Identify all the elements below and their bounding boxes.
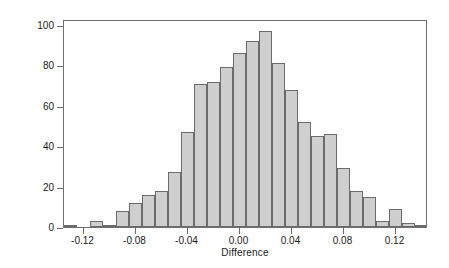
x-axis-tick-label: 0.08	[313, 235, 373, 246]
histogram-bar	[337, 168, 350, 227]
histogram-bar	[181, 132, 194, 227]
histogram-bar	[168, 172, 181, 227]
y-axis-tick	[57, 26, 63, 27]
x-axis-tick	[187, 228, 188, 234]
histogram-bar	[389, 209, 402, 227]
histogram-bar	[129, 203, 142, 227]
x-axis-tick-label: -0.08	[105, 235, 165, 246]
x-axis-tick	[395, 228, 396, 234]
histogram-bar	[103, 225, 116, 227]
histogram-bar	[220, 67, 233, 227]
x-axis-tick	[291, 228, 292, 234]
histogram-bar	[298, 122, 311, 227]
y-axis-tick-label: 100	[14, 21, 54, 31]
plot-frame	[63, 20, 427, 228]
histogram-bar	[311, 136, 324, 227]
x-axis-tick	[239, 228, 240, 234]
histogram-bar	[194, 84, 207, 227]
y-axis-tick-label: 60	[14, 102, 54, 112]
x-axis-tick-label: 0.00	[209, 235, 269, 246]
histogram-bar	[233, 53, 246, 227]
x-axis-tick	[343, 228, 344, 234]
x-axis-tick-label: -0.04	[157, 235, 217, 246]
y-axis-tick	[57, 66, 63, 67]
plot-area	[64, 21, 426, 227]
x-axis-tick	[135, 228, 136, 234]
x-axis-title: Difference	[63, 247, 427, 258]
y-axis-tick	[57, 147, 63, 148]
x-axis-tick	[83, 228, 84, 234]
y-axis-tick-label: 20	[14, 183, 54, 193]
histogram-bar	[116, 211, 129, 227]
y-axis-tick-label: 40	[14, 142, 54, 152]
histogram-bar	[90, 221, 103, 227]
histogram-figure: Frequency Difference 020406080100-0.12-0…	[0, 0, 449, 268]
x-axis-tick-label: 0.04	[261, 235, 321, 246]
histogram-bar	[246, 41, 259, 227]
histogram-bar	[324, 134, 337, 227]
y-axis-tick	[57, 188, 63, 189]
histogram-bar	[207, 82, 220, 227]
y-axis-tick	[57, 228, 63, 229]
histogram-bar	[272, 63, 285, 227]
histogram-bar	[285, 90, 298, 227]
y-axis-tick	[57, 107, 63, 108]
histogram-bar	[415, 225, 426, 227]
histogram-bar	[363, 197, 376, 227]
x-axis-tick-label: 0.12	[365, 235, 425, 246]
histogram-bar	[376, 221, 389, 227]
histogram-bar	[64, 225, 77, 227]
x-axis-tick-label: -0.12	[53, 235, 113, 246]
y-axis-tick-label: 0	[14, 223, 54, 233]
histogram-bar	[142, 195, 155, 227]
histogram-bar	[155, 191, 168, 227]
histogram-bar	[402, 223, 415, 227]
histogram-bar	[350, 191, 363, 227]
y-axis-tick-label: 80	[14, 61, 54, 71]
histogram-bar	[259, 31, 272, 227]
